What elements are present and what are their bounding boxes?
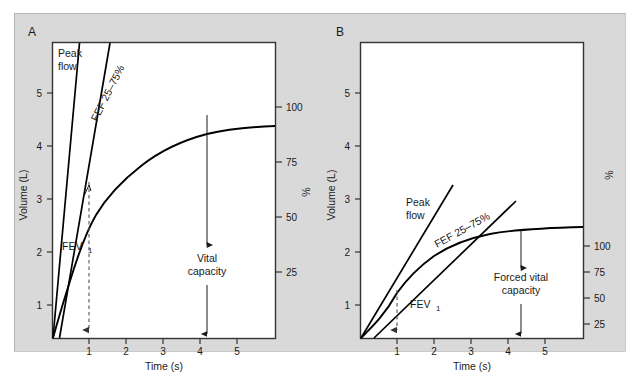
panel-a-vital-capacity-label-line2: capacity	[188, 265, 227, 277]
panel-a-xtick-4: 4	[197, 346, 203, 357]
panel-a-percent-axis-title: %	[300, 187, 312, 196]
panel-b-xtick-4: 4	[505, 346, 511, 357]
panel-a-fev1-label-subscript: 1	[88, 246, 93, 255]
panel-a-x-axis: 1 2 3 4 5	[86, 339, 240, 358]
panel-b-fvc-label-line2: capacity	[502, 284, 541, 296]
figure-svg-canvas: 5 4 3 2 1 Volume (L) 1 2 3 4 5 Time (s)	[0, 0, 641, 385]
panel-b: 5 4 3 2 1 Volume (L) 1 2 3 4 5 Time (s)	[325, 43, 615, 373]
panel-a-y-axis-title: Volume (L)	[17, 170, 29, 221]
panel-b-xtick-2: 2	[431, 346, 437, 357]
panel-b-pcttick-75: 75	[594, 267, 606, 278]
panel-b-ytick-5: 5	[344, 88, 350, 99]
panel-b-pcttick-100: 100	[594, 241, 611, 252]
panel-a-ytick-5: 5	[36, 88, 42, 99]
panel-b-x-axis: 1 2 3 4 5	[394, 339, 548, 358]
panel-a-plot-frame	[53, 43, 276, 339]
panel-b-ytick-4: 4	[344, 141, 350, 152]
panel-a-peak-flow-label-line1: Peak	[58, 47, 83, 59]
panel-b-fev1-label-text: FEV	[410, 298, 430, 310]
panel-a-pcttick-50: 50	[286, 212, 298, 223]
panel-a-xtick-2: 2	[123, 346, 129, 357]
panel-a-xtick-1: 1	[86, 346, 92, 357]
panel-b-xtick-1: 1	[394, 346, 400, 357]
panel-a-peak-flow-label-line2: flow	[58, 60, 77, 72]
panel-a-ytick-2: 2	[36, 247, 42, 258]
panel-b-pcttick-50: 50	[594, 293, 606, 304]
panel-b-ytick-2: 2	[344, 247, 350, 258]
panel-a: 5 4 3 2 1 Volume (L) 1 2 3 4 5 Time (s)	[17, 43, 312, 373]
panel-b-ytick-1: 1	[344, 300, 350, 311]
panel-b-letter: B	[336, 25, 344, 39]
panel-a-letter: A	[28, 25, 36, 39]
panel-b-peak-flow-label-line2: flow	[406, 209, 425, 221]
panel-b-peak-flow-label-line1: Peak	[406, 196, 431, 208]
panel-b-percent-axis: 100 75 50 25 %	[584, 170, 616, 330]
panel-b-xtick-3: 3	[468, 346, 474, 357]
panel-a-percent-axis: 100 75 50 25 %	[276, 102, 313, 278]
panel-b-ytick-3: 3	[344, 194, 350, 205]
panel-b-percent-axis-title: %	[603, 170, 615, 179]
spirometry-figure: 5 4 3 2 1 Volume (L) 1 2 3 4 5 Time (s)	[0, 0, 641, 385]
panel-a-y-axis: 5 4 3 2 1	[36, 88, 52, 311]
panel-a-xtick-5: 5	[234, 346, 240, 357]
panel-a-pcttick-75: 75	[286, 157, 298, 168]
panel-a-ytick-3: 3	[36, 194, 42, 205]
panel-b-y-axis: 5 4 3 2 1	[344, 88, 360, 311]
panel-a-pcttick-25: 25	[286, 267, 298, 278]
figure-caption	[14, 371, 626, 385]
panel-a-ytick-1: 1	[36, 300, 42, 311]
panel-a-xtick-3: 3	[160, 346, 166, 357]
panel-a-ytick-4: 4	[36, 141, 42, 152]
panel-a-pcttick-100: 100	[286, 102, 303, 113]
panel-b-pcttick-25: 25	[594, 319, 606, 330]
panel-b-fev1-label-subscript: 1	[436, 304, 441, 313]
panel-b-plot-frame	[361, 43, 584, 339]
panel-a-fev1-label-text: FEV	[62, 240, 82, 252]
panel-b-y-axis-title: Volume (L)	[325, 170, 337, 221]
panel-a-vital-capacity-label-line1: Vital	[197, 252, 217, 264]
panel-b-xtick-5: 5	[542, 346, 548, 357]
panel-b-fvc-label-line1: Forced vital	[494, 271, 548, 283]
